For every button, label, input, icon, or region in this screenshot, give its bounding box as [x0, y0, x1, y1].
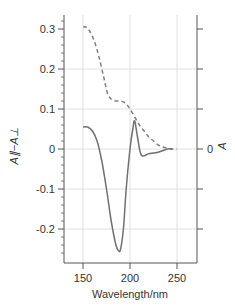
y-axis-label: A∥−A⊥	[8, 127, 21, 165]
svg-text:0.1: 0.1	[40, 103, 55, 115]
svg-text:-0.1: -0.1	[36, 183, 55, 195]
svg-text:0.3: 0.3	[40, 23, 55, 35]
right-tick-label-zero: 0	[207, 143, 213, 155]
linear-dichroism-solid-line	[83, 121, 172, 252]
x-axis-label: Wavelength/nm	[92, 288, 168, 300]
chart: 0.3 0.2 0.1 0 -0.1 -0.2 0 150 200 250 Wa…	[0, 0, 235, 308]
svg-text:0.2: 0.2	[40, 63, 55, 75]
svg-text:0: 0	[49, 143, 55, 155]
svg-text:250: 250	[168, 272, 186, 284]
bottom-tick-labels: 150 200 250	[74, 272, 186, 284]
y-right-axis-label: A	[216, 142, 228, 150]
svg-text:150: 150	[74, 272, 92, 284]
bottom-ticks	[83, 263, 177, 269]
left-ticks	[58, 29, 64, 229]
svg-text:-0.2: -0.2	[36, 223, 55, 235]
svg-text:200: 200	[121, 272, 139, 284]
left-tick-labels: 0.3 0.2 0.1 0 -0.1 -0.2	[36, 23, 55, 235]
right-ticks	[197, 29, 203, 229]
